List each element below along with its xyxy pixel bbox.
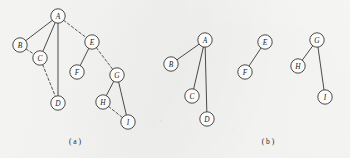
node-E[interactable]: E: [258, 35, 272, 49]
edge-H-I-dashed: [109, 107, 123, 118]
node-C[interactable]: C: [33, 51, 47, 65]
panel-a-nodes: ABCDEFGHI: [13, 9, 135, 129]
edge-E-F-solid: [80, 48, 89, 65]
node-A[interactable]: A: [198, 33, 212, 47]
edge-B-C-dashed: [26, 49, 34, 54]
node-H[interactable]: H: [96, 95, 110, 109]
panel-b-nodes: ABCDEFGHI: [164, 33, 332, 126]
edge-A-B-solid: [177, 44, 199, 60]
node-label-C: C: [190, 92, 195, 101]
node-label-H: H: [99, 98, 106, 107]
panel-b-edges: [177, 44, 324, 112]
node-B[interactable]: B: [13, 38, 27, 52]
edge-G-I-solid: [119, 82, 127, 115]
edge-A-C-solid: [43, 23, 55, 52]
node-label-G: G: [114, 71, 120, 80]
node-I[interactable]: I: [318, 90, 332, 104]
figure-root: ABCDEFGHI( a )ABCDEFGHI( b ): [0, 0, 350, 158]
node-C[interactable]: C: [185, 89, 199, 103]
node-F[interactable]: F: [238, 65, 252, 79]
node-label-A: A: [202, 36, 208, 45]
panel-a: ABCDEFGHI( a ): [13, 9, 135, 146]
node-label-G: G: [314, 36, 320, 45]
node-label-E: E: [89, 38, 95, 47]
node-F[interactable]: F: [70, 65, 84, 79]
edge-G-H-solid: [302, 46, 313, 60]
graph-figure: ABCDEFGHI( a )ABCDEFGHI( b ): [0, 0, 350, 158]
node-label-I: I: [126, 118, 130, 127]
edge-G-I-solid: [318, 47, 324, 90]
node-label-E: E: [262, 38, 268, 47]
node-label-H: H: [294, 62, 301, 71]
node-label-D: D: [203, 115, 210, 124]
edge-A-C-solid: [194, 47, 204, 89]
node-G[interactable]: G: [110, 68, 124, 82]
node-label-C: C: [38, 54, 43, 63]
edge-A-E-dashed: [64, 20, 87, 37]
panel-b: ABCDEFGHI( b ): [164, 33, 332, 146]
edge-A-D-solid: [205, 47, 207, 112]
node-label-F: F: [74, 68, 80, 77]
node-I[interactable]: I: [121, 115, 135, 129]
node-label-B: B: [169, 60, 174, 69]
edge-C-D-dashed: [43, 65, 56, 97]
node-D[interactable]: D: [51, 96, 65, 110]
node-B[interactable]: B: [164, 57, 178, 71]
node-label-B: B: [18, 41, 23, 50]
edge-E-F-solid: [249, 48, 261, 66]
node-E[interactable]: E: [85, 35, 99, 49]
node-label-D: D: [54, 99, 61, 108]
node-A[interactable]: A: [51, 9, 65, 23]
node-G[interactable]: G: [310, 33, 324, 47]
node-label-I: I: [323, 93, 327, 102]
panel-b-caption: ( b ): [262, 137, 275, 146]
node-D[interactable]: D: [200, 112, 214, 126]
node-label-A: A: [55, 12, 61, 21]
edge-G-H-solid: [106, 81, 113, 95]
edge-E-G-dashed: [96, 48, 112, 70]
node-label-F: F: [242, 68, 248, 77]
node-H[interactable]: H: [291, 59, 305, 73]
panel-a-caption: ( a ): [69, 137, 82, 146]
